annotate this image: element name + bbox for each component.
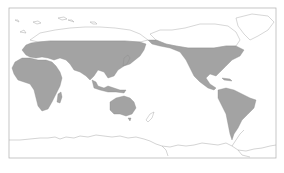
world-map [0,0,284,173]
